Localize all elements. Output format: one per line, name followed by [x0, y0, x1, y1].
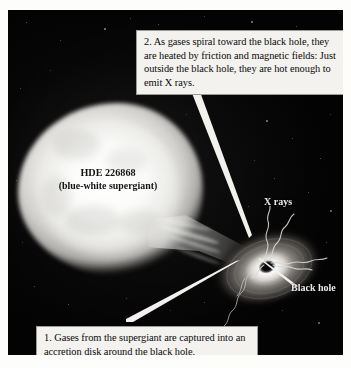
star-surface-texture — [54, 130, 100, 160]
star-name: HDE 226868 — [44, 167, 172, 180]
star-surface-texture — [66, 206, 120, 234]
xrays-label: X rays — [264, 196, 292, 207]
callout-box-2: 2. As gases spiral toward the black hole… — [136, 30, 343, 95]
callout-box-1: 1. Gases from the supergiant are capture… — [36, 326, 258, 355]
figure-root: HDE 226868 (blue-white supergiant) X ray… — [0, 0, 351, 368]
star-type: (blue-white supergiant) — [44, 180, 172, 192]
leader-line-callout-2 — [186, 78, 256, 238]
leader-line-callout-1 — [126, 260, 240, 322]
black-hole-label: Black hole — [291, 282, 336, 293]
photographic-plate: HDE 226868 (blue-white supergiant) X ray… — [8, 10, 343, 355]
star-label: HDE 226868 (blue-white supergiant) — [44, 167, 172, 192]
